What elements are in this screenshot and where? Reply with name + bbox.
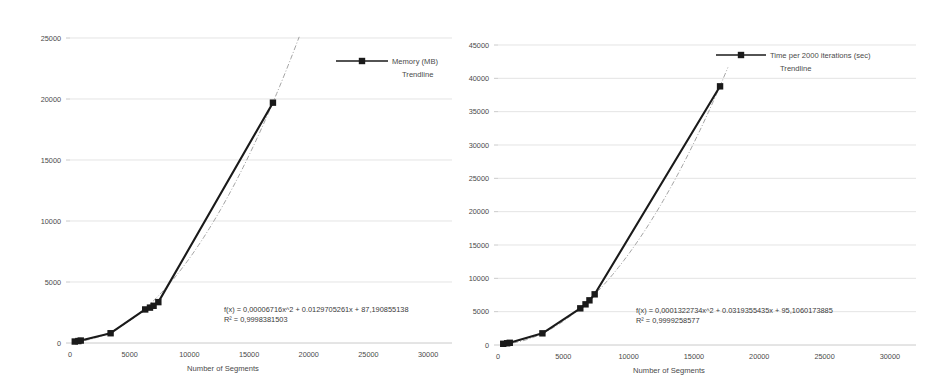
y-tick-label: 15000 [41,156,61,165]
r-squared-annotation: R² = 0,9999258577 [636,316,700,325]
y-tick-label: 10000 [41,217,61,226]
y-tick-label: 5000 [473,307,489,316]
data-point-marker [507,340,513,346]
x-tick-label: 20000 [299,350,319,359]
x-axis-title: Number of Segments [187,364,259,373]
y-tick-label: 25000 [41,34,61,43]
x-tick-label: 5000 [555,352,571,361]
x-tick-label: 15000 [684,352,704,361]
x-tick-label: 15000 [239,350,259,359]
x-tick-label: 25000 [358,350,378,359]
legend-marker-icon [359,58,365,64]
data-point-marker [591,291,597,297]
y-tick-label: 35000 [469,107,489,116]
y-tick-label: 5000 [45,278,61,287]
x-tick-label: 25000 [814,352,834,361]
time-chart-panel: 0500010000150002000025000300003500040000… [465,0,930,391]
trendline-path [75,37,299,342]
trendline-equation-annotation: f(x) = 0,00006716x^2 + 0.0129705261x + 8… [224,305,409,314]
charts-page: 0500010000150002000025000050001000015000… [0,0,931,391]
data-point-marker [586,297,592,303]
data-point-marker [78,337,84,343]
r-squared-annotation: R² = 0,9998381503 [224,315,288,324]
x-tick-label: 10000 [618,352,638,361]
y-tick-label: 25000 [469,174,489,183]
x-tick-label: 0 [496,352,500,361]
y-tick-label: 45000 [469,41,489,50]
data-point-marker [717,83,723,89]
x-axis-title: Number of Segments [633,366,705,375]
time-chart-svg: 0500010000150002000025000300003500040000… [465,0,930,391]
x-tick-label: 20000 [749,352,769,361]
legend-label-trendline[interactable]: Trendline [780,64,811,73]
y-tick-label: 30000 [469,141,489,150]
y-tick-label: 0 [57,339,61,348]
legend-marker-icon [738,52,744,58]
data-point-marker [539,330,545,336]
x-tick-label: 0 [68,350,72,359]
trendline-equation-annotation: f(x) = 0,0001322734x^2 + 0.0319355435x +… [636,306,833,315]
y-tick-label: 15000 [469,241,489,250]
y-tick-label: 10000 [469,274,489,283]
legend-label-series[interactable]: Time per 2000 iterations (sec) [770,51,871,60]
trendline-path [503,67,728,344]
y-tick-label: 40000 [469,74,489,83]
y-tick-label: 20000 [469,207,489,216]
data-point-marker [270,99,276,105]
legend-label-series[interactable]: Memory (MB) [392,57,438,66]
x-tick-label: 30000 [880,352,900,361]
x-tick-label: 30000 [418,350,438,359]
x-tick-label: 10000 [179,350,199,359]
data-point-marker [155,299,161,305]
memory-chart-panel: 0500010000150002000025000050001000015000… [0,0,465,391]
data-point-marker [107,330,113,336]
y-tick-label: 0 [485,341,489,350]
x-tick-label: 5000 [122,350,138,359]
legend-label-trendline[interactable]: Trendline [402,70,433,79]
memory-chart-svg: 0500010000150002000025000050001000015000… [0,0,465,391]
y-tick-label: 20000 [41,95,61,104]
